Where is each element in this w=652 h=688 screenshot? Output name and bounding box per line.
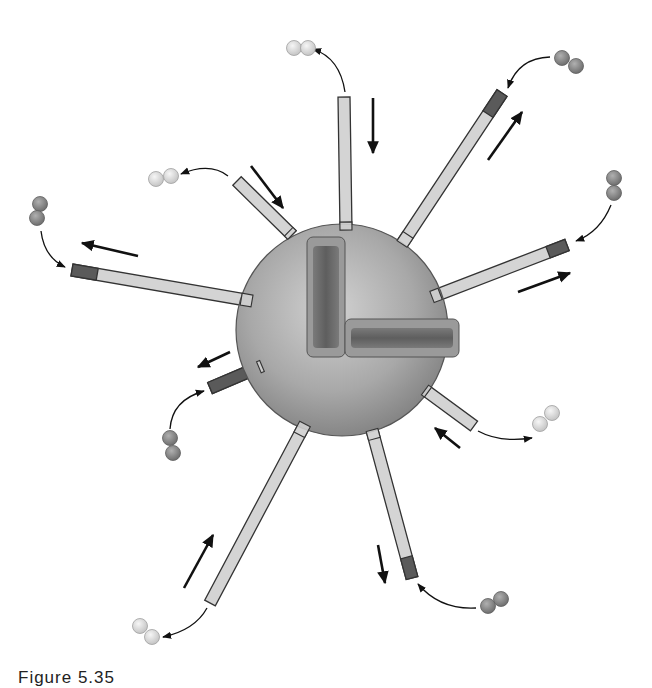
growing-cap (483, 90, 507, 118)
arrow-right-icon (518, 273, 570, 292)
arrow-bottom-left-icon (184, 535, 213, 588)
dimer-upper-left (149, 169, 179, 187)
growing-cap (401, 556, 418, 580)
rod-top (338, 97, 352, 230)
growing-cap (71, 264, 98, 280)
dimer-top-right (555, 51, 584, 74)
dimer-bottom-left (133, 619, 160, 645)
curve-top-icon (313, 49, 345, 92)
growing-cap (208, 367, 249, 393)
curve-left-icon (41, 231, 65, 267)
figure-caption: Figure 5.35 (18, 668, 618, 688)
curve-upper-left-icon (181, 168, 228, 176)
dimer-lower-right (533, 406, 560, 432)
rod-top-right (397, 90, 507, 248)
dimer-top (287, 41, 316, 56)
arrow-top-right-icon (488, 112, 522, 160)
growing-cap (546, 239, 569, 257)
curve-lower-left-icon (170, 391, 204, 429)
sphere-layer (236, 224, 459, 436)
dimer-left (30, 197, 48, 226)
dimer-lower-left (163, 431, 181, 461)
arrow-lower-left-icon (198, 352, 230, 367)
arrow-left-icon (82, 243, 138, 256)
curve-bottom-left-icon (163, 608, 207, 637)
horizontal-block (351, 328, 453, 348)
dimer-right (607, 171, 622, 201)
curve-lower-right-icon (478, 431, 532, 439)
arrow-lower-right-icon (435, 428, 460, 448)
rod-bottom-left (205, 421, 311, 606)
vertical-block (313, 246, 339, 348)
rod-right (430, 239, 569, 302)
rod-top-base (340, 222, 352, 230)
curve-top-right-icon (508, 57, 550, 88)
rod-lower-right-short (421, 385, 477, 431)
dimer-bottom-right (481, 592, 509, 614)
arrow-bottom-icon (378, 545, 385, 583)
curve-bottom-right-icon (418, 584, 476, 608)
rod-bottom (366, 428, 418, 579)
rod-upper-left (233, 177, 296, 240)
rod-left-base (240, 293, 253, 307)
rod-left (71, 264, 253, 307)
curve-right-icon (576, 205, 611, 241)
